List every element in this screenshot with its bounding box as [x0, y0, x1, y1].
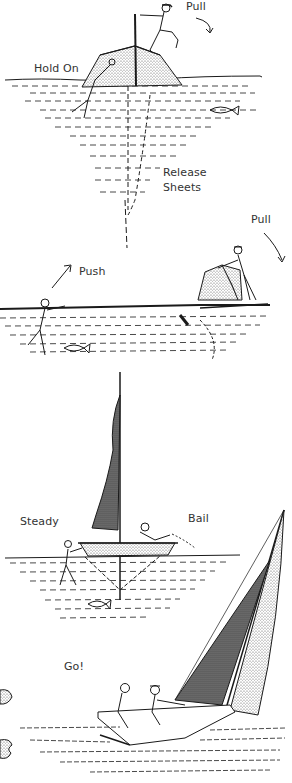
label-release-sheets-line1: Release [163, 166, 207, 179]
label-steady: Steady [20, 515, 59, 528]
step-2-righting-boat [0, 200, 285, 360]
label-hold-on: Hold On [34, 62, 79, 75]
capsize-recovery-illustration: Pull Hold On Release Sheets Push Pull St… [0, 0, 292, 783]
label-pull-2: Pull [251, 213, 271, 226]
label-bail: Bail [188, 512, 209, 525]
label-pull-1: Pull [186, 0, 206, 13]
label-push: Push [79, 265, 106, 278]
label-go: Go! [64, 660, 84, 673]
illustration-artwork [0, 0, 292, 783]
label-release-sheets-line2: Sheets [163, 181, 201, 194]
step-1-capsized-boat [5, 4, 262, 215]
step-3-bailing-boat [5, 372, 240, 618]
